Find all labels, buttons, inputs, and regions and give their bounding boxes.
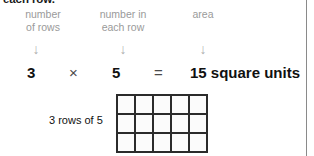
equation-result: 15 square units <box>190 64 300 82</box>
grid-cell <box>172 134 188 151</box>
equation-equals-operator: = <box>154 64 163 82</box>
right-margin-rule <box>306 0 307 156</box>
grid-cell <box>190 134 206 151</box>
grid-cell <box>154 134 170 151</box>
caption-line-2: each row <box>84 21 162 34</box>
caption-line-2: of rows <box>14 21 72 34</box>
equation-multiply-operator: × <box>69 64 78 82</box>
equation-factor-1: 3 <box>27 64 35 82</box>
grid-cell <box>136 96 152 113</box>
caption-number-of-rows: number of rows <box>14 8 72 34</box>
grid-label: 3 rows of 5 <box>49 114 103 126</box>
worksheet-page: each row. number of rows number in each … <box>0 0 314 156</box>
down-arrow-icon-each-row: ↓ <box>116 41 130 57</box>
grid-cell <box>190 96 206 113</box>
caption-line-1: number <box>25 8 61 20</box>
caption-line-1: number in <box>100 8 147 20</box>
grid-cell <box>118 115 134 132</box>
grid-cell <box>136 134 152 151</box>
caption-number-in-each-row: number in each row <box>84 8 162 34</box>
grid-cell <box>136 115 152 132</box>
grid-cell <box>172 115 188 132</box>
caption-area: area <box>178 8 228 21</box>
grid-cell <box>118 96 134 113</box>
down-arrow-icon-rows: ↓ <box>29 41 43 57</box>
grid-cell <box>118 134 134 151</box>
area-model-grid <box>116 94 208 153</box>
grid-cell <box>154 115 170 132</box>
down-arrow-icon-area: ↓ <box>196 41 210 57</box>
grid-cell <box>154 96 170 113</box>
grid-cell <box>190 115 206 132</box>
grid-cell <box>172 96 188 113</box>
equation-factor-2: 5 <box>112 64 120 82</box>
caption-line-1: area <box>192 8 213 20</box>
clipped-sentence-text: each row. <box>3 0 55 5</box>
